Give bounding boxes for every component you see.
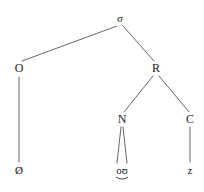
edge-rhyme-nucleus: [124, 76, 153, 112]
leaf-null-onset: Ø: [15, 165, 23, 176]
edge-sigma-onset: [22, 26, 117, 61]
tree-edges-layer: [0, 0, 204, 192]
node-onset: O: [15, 62, 24, 74]
syllable-structure-tree-figure: σ O R N C Ø oʊ z: [0, 0, 204, 192]
node-syllable: σ: [117, 13, 123, 24]
node-rhyme: R: [152, 62, 160, 74]
node-coda: C: [186, 113, 194, 125]
edge-nucleus-leaf-first: [117, 127, 121, 163]
leaf-coda-segment: z: [188, 165, 193, 176]
leaf-diphthong: oʊ: [116, 165, 128, 176]
node-nucleus: N: [118, 113, 127, 125]
edge-nucleus-leaf-second: [123, 127, 127, 163]
edge-rhyme-coda: [159, 76, 189, 112]
edge-sigma-rhyme: [123, 26, 154, 61]
